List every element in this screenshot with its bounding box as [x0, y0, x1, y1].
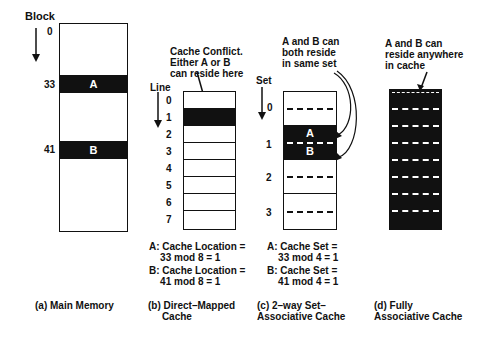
line-label-2: 2: [166, 129, 172, 140]
line-1-occupied: [184, 108, 235, 125]
set-associative-cache-box: A B: [283, 91, 337, 230]
main-memory-box: A B: [59, 23, 128, 232]
line-label-6: 6: [166, 197, 172, 208]
line-label-0: 0: [166, 95, 172, 106]
set-label-1: 1: [266, 139, 272, 150]
set-label-3: 3: [266, 207, 272, 218]
set-1-occupied: A B: [284, 125, 336, 160]
line-label-5: 5: [166, 180, 172, 191]
caption-main-memory: (a) Main Memory: [35, 300, 114, 311]
conflict-annotation: Cache Conflict. Either A or B can reside…: [170, 46, 243, 79]
block-label-33: 33: [44, 79, 55, 90]
line-label-7: 7: [166, 214, 172, 225]
block-b: B: [60, 141, 127, 159]
line-label-3: 3: [166, 146, 172, 157]
set-label-2: 2: [266, 172, 272, 183]
line-axis-arrow-icon: [154, 92, 162, 128]
fully-associative-cache-box: [389, 89, 442, 230]
set-axis-label: Set: [256, 75, 272, 86]
block-label-0: 0: [47, 26, 53, 37]
calc-b-set: B: Cache Set = 41 mod 4 = 1: [267, 265, 338, 287]
set-axis-arrow-icon: [258, 87, 266, 120]
set-label-0: 0: [267, 102, 273, 113]
block-axis-arrow-icon: [32, 28, 40, 62]
block-axis-label: Block: [25, 11, 55, 22]
calc-b-direct: B: Cache Location = 41 mod 8 = 1: [149, 265, 245, 287]
direct-mapped-cache-box: [183, 91, 236, 230]
calc-a-direct: A: Cache Location = 33 mod 8 = 1: [149, 241, 245, 263]
caption-set-associative: (c) 2–way Set– Associative Cache: [257, 300, 345, 322]
caption-direct-mapped: (b) Direct–Mapped Cache: [148, 300, 235, 322]
anywhere-annotation: A and B can reside anywhere in cache: [385, 38, 463, 71]
calc-a-set: A: Cache Set = 33 mod 4 = 1: [267, 241, 338, 263]
caption-fully-associative: (d) Fully Associative Cache: [374, 300, 462, 322]
set-block-a: A: [284, 127, 336, 140]
block-label-41: 41: [44, 144, 55, 155]
set-curved-arrows-icon: [334, 71, 356, 157]
line-label-1: 1: [166, 112, 172, 123]
line-axis-label: Line: [150, 82, 171, 93]
set-annotation: A and B can both reside in same set: [282, 36, 339, 69]
line-label-4: 4: [166, 163, 172, 174]
block-a: A: [60, 75, 127, 93]
set-block-b: B: [284, 145, 336, 158]
